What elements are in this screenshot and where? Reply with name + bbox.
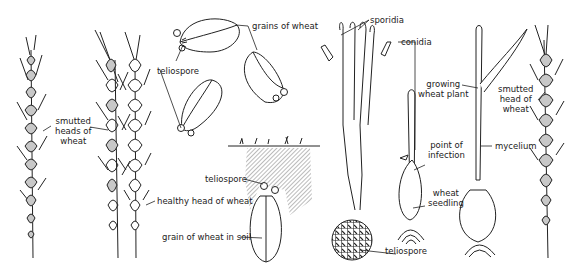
label-point-of-infection: point of infection <box>428 140 465 160</box>
label-grain-in-soil: grain of wheat in soil <box>162 232 251 242</box>
label-smutted-head-line1: smutted <box>498 84 533 94</box>
label-smutted-heads-line2: heads of <box>55 126 92 136</box>
label-mycelium: mycelium <box>495 141 537 151</box>
label-point-of-infection-line2: infection <box>428 150 465 160</box>
label-wheat-seedling-line2: seedling <box>428 198 464 208</box>
healthy-wheat-head <box>118 32 151 258</box>
label-wheat-seedling-line1: wheat <box>428 188 464 198</box>
wheat-smut-diagram: smutted heads of wheat healthy head of w… <box>0 0 581 274</box>
label-smutted-heads-line3: wheat <box>55 136 92 146</box>
label-grains-of-wheat: grains of wheat <box>252 21 318 31</box>
label-growing-plant-line1: growing <box>418 79 469 89</box>
label-wheat-seedling: wheat seedling <box>428 188 464 208</box>
label-teliospore-top: teliospore <box>157 66 199 76</box>
label-conidia: conidia <box>401 37 432 47</box>
label-sporidia: sporidia <box>370 15 404 25</box>
label-smutted-head: smutted head of wheat <box>498 84 533 114</box>
label-teliospore-soil: teliospore <box>205 174 247 184</box>
label-smutted-heads: smutted heads of wheat <box>55 116 92 146</box>
label-smutted-head-line3: wheat <box>498 104 533 114</box>
grains-with-teliospores <box>174 19 288 136</box>
smutted-wheat-head-middle <box>95 30 130 258</box>
label-growing-plant: growing wheat plant <box>418 79 469 99</box>
smutted-wheat-head-left <box>17 35 47 258</box>
germinating-teliospore <box>321 22 391 260</box>
label-point-of-infection-line1: point of <box>428 140 465 150</box>
label-smutted-heads-line1: smutted <box>55 116 92 126</box>
label-growing-plant-line2: wheat plant <box>418 89 469 99</box>
label-smutted-head-line2: head of <box>498 94 533 104</box>
label-healthy-head: healthy head of wheat <box>157 196 253 206</box>
label-teliospore-germ: teliospore <box>385 246 427 256</box>
